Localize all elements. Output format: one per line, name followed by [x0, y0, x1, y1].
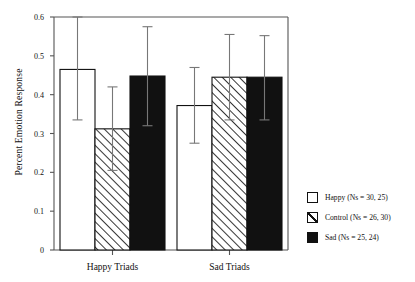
legend-item: Happy (Ns = 30, 25): [307, 192, 391, 203]
hatched-square-icon: [307, 212, 318, 223]
legend-item: Sad (Ns = 25, 24): [307, 232, 391, 243]
bar-chart-figure: Percent Emotion Response 00.10.20.30.40.…: [0, 0, 415, 282]
legend-item-label: Sad (Ns = 25, 24): [325, 234, 379, 242]
legend-item-label: Happy (Ns = 30, 25): [325, 194, 388, 202]
open-square-icon: [307, 192, 318, 203]
legend-item-label: Control (Ns = 26, 30): [325, 214, 391, 222]
x-axis-category-label: Happy Triads: [87, 262, 138, 272]
chart-legend: Happy (Ns = 30, 25)Control (Ns = 26, 30)…: [307, 192, 391, 252]
legend-item: Control (Ns = 26, 30): [307, 212, 391, 223]
filled-square-icon: [307, 232, 318, 243]
x-axis-category-label: Sad Triads: [209, 262, 249, 272]
